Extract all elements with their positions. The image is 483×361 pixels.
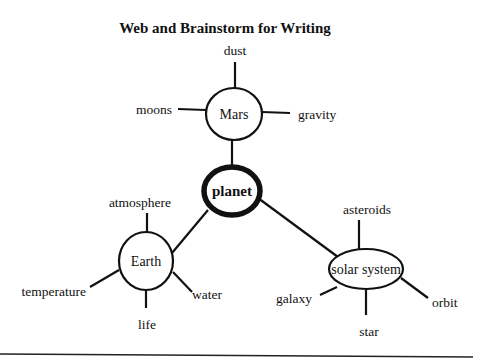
leaf-galaxy: galaxy [276,291,312,306]
leaf-dust: dust [224,43,247,58]
node-mars-label: Mars [220,107,249,122]
leaf-life: life [138,317,156,332]
edge-solar-galaxy [320,287,337,295]
node-solar-system: solar system [329,249,403,289]
brainstorm-web-diagram: Web and Brainstorm for Writing Mars plan… [0,0,483,361]
node-planet-center: planet [204,167,260,215]
node-solar-label: solar system [331,262,401,277]
leaf-water: water [192,287,222,302]
leaf-asteroids: asteroids [343,202,391,217]
edge-mars-gravity [262,112,290,113]
node-earth: Earth [119,232,173,290]
leaf-gravity: gravity [298,107,336,122]
edge-earth-temperature [90,270,119,287]
edge-planet-solar [258,198,338,257]
node-mars: Mars [206,88,262,140]
node-earth-label: Earth [131,254,161,269]
bottom-rule [0,354,473,357]
leaf-star: star [359,324,379,339]
leaf-orbit: orbit [432,295,458,310]
edge-mars-moons [178,109,206,110]
edge-earth-water [173,272,192,292]
leaf-temperature: temperature [22,284,86,299]
node-planet-label: planet [212,183,252,199]
leaf-atmosphere: atmosphere [109,195,171,210]
edge-solar-orbit [401,278,428,298]
diagram-title: Web and Brainstorm for Writing [119,20,331,36]
edge-planet-earth [172,210,208,253]
leaf-moons: moons [136,102,172,117]
